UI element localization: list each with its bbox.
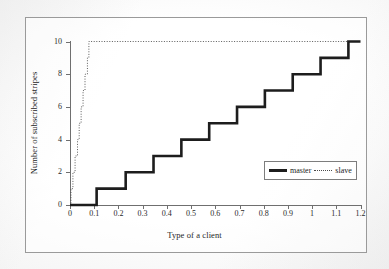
series-layer [0,0,389,269]
plot-area: 00.10.20.30.40.50.60.70.80.911.11.2 0246… [0,0,389,269]
legend-label-slave: slave [335,166,351,175]
chart-legend: master slave [264,161,357,180]
y-axis-title: Number of subscribed stripes [29,43,39,203]
series-line-master [70,42,361,206]
legend-swatch-master-icon [269,169,287,172]
x-axis-title: Type of a client [0,230,389,240]
figure-page: 00.10.20.30.40.50.60.70.80.911.11.2 0246… [0,0,389,269]
legend-label-master: master [290,166,311,175]
legend-swatch-slave-icon [314,170,332,171]
